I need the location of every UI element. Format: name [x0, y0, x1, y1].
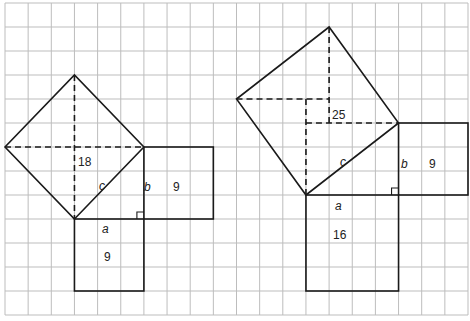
right-area-c-label: 25: [332, 108, 346, 122]
right-right-angle-marker: [392, 188, 399, 195]
right-square-c: [237, 27, 399, 195]
left-right-angle-marker: [137, 212, 144, 219]
left-side-c-label: c: [99, 179, 105, 193]
pythagoras-diagram: 18 c b 9 a 9 25 c b 9 a 16: [0, 0, 470, 321]
left-area-a-label: 9: [104, 250, 111, 264]
left-area-b-label: 9: [173, 180, 180, 194]
right-dashed-lines: [237, 27, 399, 195]
left-area-c-label: 18: [78, 155, 92, 169]
right-side-a-label: a: [335, 199, 342, 213]
left-figure: 18 c b 9 a 9: [5, 75, 213, 291]
right-area-b-label: 9: [429, 157, 436, 171]
right-side-b-label: b: [401, 157, 408, 171]
left-side-b-label: b: [144, 180, 151, 194]
right-side-c-label: c: [340, 155, 346, 169]
left-side-a-label: a: [102, 222, 109, 236]
right-area-a-label: 16: [333, 228, 347, 242]
diagram-canvas: 18 c b 9 a 9 25 c b 9 a 16: [0, 0, 470, 321]
